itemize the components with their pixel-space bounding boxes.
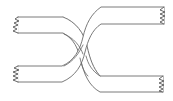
figure-root: Two flat bands crossing over one another…: [0, 0, 173, 101]
crossing-bands-illustration: [0, 0, 173, 101]
